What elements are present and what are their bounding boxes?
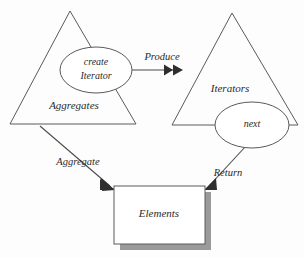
return-edge-label: Return	[213, 167, 243, 178]
diagram-vector-surface: Aggregates Iterators create Iterator nex…	[0, 0, 304, 258]
aggregates-label: Aggregates	[48, 99, 99, 111]
produce-arrowhead-inner	[164, 65, 173, 76]
produce-edge-label: Produce	[143, 51, 180, 62]
elements-label: Elements	[138, 207, 179, 219]
aggregate-edge-label: Aggregate	[55, 156, 100, 167]
iterators-label: Iterators	[210, 82, 250, 94]
create-iterator-label-line2: Iterator	[79, 70, 111, 81]
return-arrowhead	[204, 178, 217, 190]
produce-arrowhead-outer	[173, 65, 183, 76]
next-label: next	[244, 118, 261, 129]
create-iterator-label-line1: create	[84, 56, 109, 67]
aggregate-arrowhead-fill	[101, 178, 115, 191]
diagram-canvas: Aggregates Iterators create Iterator nex…	[0, 0, 304, 258]
